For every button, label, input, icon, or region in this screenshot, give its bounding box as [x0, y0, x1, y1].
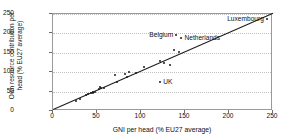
data-point	[87, 93, 89, 95]
data-point-label: Belgium	[149, 31, 176, 38]
gridline	[53, 53, 271, 54]
y-axis-title-line2: head (% EU27 average)	[16, 0, 24, 112]
y-axis-title: Own resource contribution per head (% EU…	[8, 0, 23, 112]
y-axis-tick-label: 0	[0, 106, 14, 113]
data-point	[159, 60, 161, 62]
x-axis-title: GNI per head (% EU27 average)	[52, 126, 272, 133]
x-axis-tick-mark	[140, 110, 141, 113]
data-point	[126, 76, 128, 78]
y-axis-tick-label: 50	[0, 87, 14, 94]
data-point	[116, 81, 118, 83]
x-axis-tick-mark	[184, 110, 185, 113]
x-axis-tick-mark	[52, 110, 53, 113]
x-axis-tick-label: 250	[259, 112, 285, 119]
gridline	[53, 92, 271, 93]
x-axis-tick-label: 50	[83, 112, 109, 119]
data-point-label: Luxembourg	[227, 15, 267, 22]
x-axis-tick-label: 0	[39, 112, 65, 119]
x-axis-tick-mark	[96, 110, 97, 113]
x-axis-tick-label: 150	[171, 112, 197, 119]
data-point	[124, 73, 126, 75]
data-point	[135, 72, 137, 74]
x-axis-tick-label: 200	[215, 112, 241, 119]
data-point	[143, 66, 145, 68]
data-point	[114, 74, 116, 76]
data-point	[159, 81, 161, 83]
plot-area: BelgiumNetherlandsUKLuxembourg	[52, 13, 272, 110]
x-axis-tick-label: 100	[127, 112, 153, 119]
data-point	[169, 64, 171, 66]
data-point	[180, 37, 182, 39]
data-point	[173, 49, 175, 51]
x-axis-tick-mark	[228, 110, 229, 113]
x-axis-tick-mark	[272, 110, 273, 113]
y-axis-tick-label: 200	[0, 29, 14, 36]
data-point-label: UK	[163, 78, 172, 85]
data-point	[75, 100, 77, 102]
data-point	[163, 62, 165, 64]
data-point	[79, 98, 81, 100]
data-point	[103, 87, 105, 89]
data-point	[128, 71, 130, 73]
data-point	[178, 51, 180, 53]
data-point	[94, 91, 96, 93]
y-axis-tick-label: 100	[0, 68, 14, 75]
y-axis-tick-label: 150	[0, 48, 14, 55]
gridline	[53, 72, 271, 73]
y-axis-tick-label: 250	[0, 9, 14, 16]
scatter-chart: Own resource contribution per head (% EU…	[0, 0, 288, 140]
data-point	[98, 88, 100, 90]
data-point-label: Netherlands	[184, 34, 220, 41]
